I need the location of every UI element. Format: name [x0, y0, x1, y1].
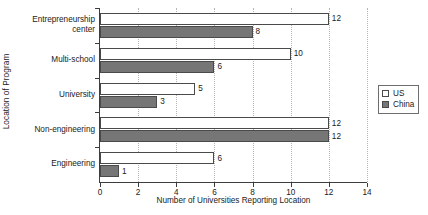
bar-value-label-us: 6 — [217, 154, 222, 163]
gridline — [253, 8, 254, 182]
category-label: Multi-school — [13, 55, 95, 66]
x-axis-title: Number of Universities Reporting Locatio… — [100, 196, 367, 205]
y-axis-tick — [95, 8, 100, 9]
bar-us — [100, 13, 329, 25]
x-axis-tick — [329, 183, 330, 187]
y-axis-tick — [95, 112, 100, 113]
bar-china — [100, 26, 253, 38]
gridline — [291, 8, 292, 182]
bar-us — [100, 117, 329, 129]
bar-value-label-china: 8 — [256, 27, 261, 36]
x-axis-tick — [291, 183, 292, 187]
category-label: Non-engineering — [13, 125, 95, 136]
legend-swatch-us-icon — [382, 90, 389, 97]
category-label: Entrepreneurship center — [13, 15, 95, 36]
category-axis-labels: Entrepreneurship centerMulti-schoolUnive… — [14, 8, 98, 182]
bar-chart: Location of Program Entrepreneurship cen… — [0, 0, 428, 215]
plot-area: 0246810121412810653121261 — [100, 8, 367, 182]
x-axis-tick — [214, 183, 215, 187]
x-axis-tick — [367, 183, 368, 187]
y-axis-tick — [95, 78, 100, 79]
bar-us — [100, 83, 195, 95]
x-axis-tick — [100, 183, 101, 187]
bar-value-label-china: 3 — [160, 97, 165, 106]
legend-swatch-china-icon — [382, 101, 389, 108]
bar-value-label-us: 12 — [332, 119, 341, 128]
bar-china — [100, 96, 157, 108]
category-label: University — [13, 90, 95, 101]
bar-value-label-us: 12 — [332, 14, 341, 23]
legend-label-us: US — [393, 89, 404, 98]
bar-us — [100, 48, 291, 60]
bar-china — [100, 130, 329, 142]
bar-value-label-china: 12 — [332, 132, 341, 141]
bar-value-label-china: 6 — [217, 62, 222, 71]
bar-value-label-us: 10 — [294, 49, 303, 58]
x-axis-line — [99, 182, 367, 183]
x-axis-tick — [253, 183, 254, 187]
gridline — [329, 8, 330, 182]
legend-item-us[interactable]: US — [382, 88, 414, 99]
bar-china — [100, 165, 119, 177]
x-axis-tick — [176, 183, 177, 187]
x-axis-tick — [138, 183, 139, 187]
bar-china — [100, 61, 214, 73]
legend-label-china: China — [393, 100, 414, 109]
legend-item-china[interactable]: China — [382, 99, 414, 110]
category-label: Engineering — [13, 159, 95, 170]
y-axis-tick — [95, 43, 100, 44]
gridline — [367, 8, 368, 182]
y-axis-title-text: Location of Program — [3, 53, 12, 129]
chart-legend: US China — [378, 85, 419, 114]
bar-value-label-china: 1 — [122, 167, 127, 176]
y-axis-tick — [95, 147, 100, 148]
y-axis-title: Location of Program — [0, 0, 14, 182]
bar-us — [100, 152, 214, 164]
bar-value-label-us: 5 — [198, 84, 203, 93]
